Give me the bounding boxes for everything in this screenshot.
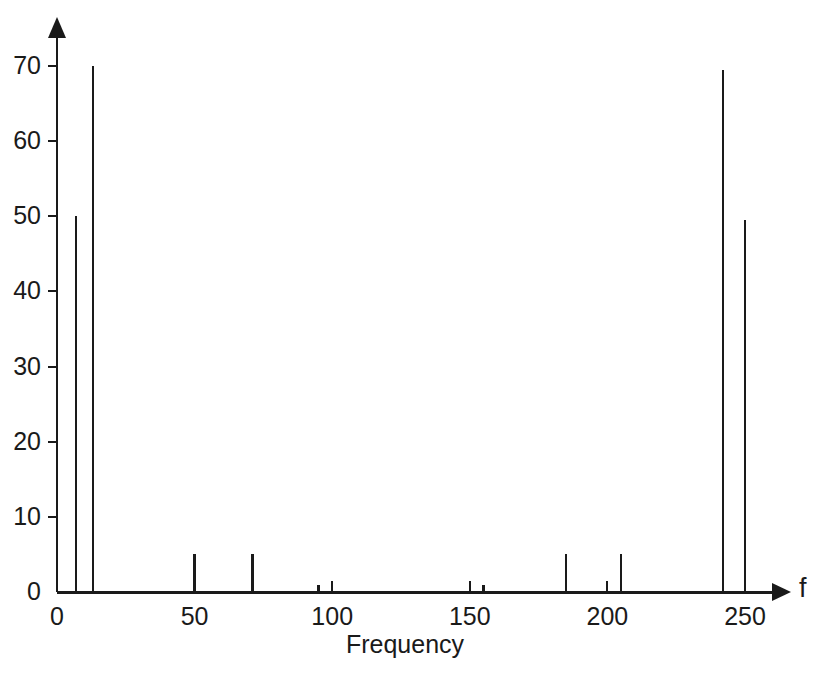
y-axis-tick-label: 20: [0, 429, 41, 454]
spectrum-plot-canvas: [0, 0, 836, 675]
x-axis-tick-label: 150: [430, 604, 510, 629]
y-axis-tick-label: 50: [0, 203, 41, 228]
x-axis-tick-label: 50: [155, 604, 235, 629]
y-axis-tick-label: 0: [0, 579, 41, 604]
spectrum-stems: [76, 66, 745, 592]
x-axis-title: Frequency: [305, 632, 505, 657]
x-axis-tick-label: 250: [705, 604, 785, 629]
ticks-layer: [48, 66, 745, 592]
frequency-spectrum-figure: 010203040506070 050100150200250 f Freque…: [0, 0, 836, 675]
y-axis-tick-label: 40: [0, 278, 41, 303]
x-axis-symbol-label: f: [799, 575, 807, 602]
y-axis-tick-label: 30: [0, 354, 41, 379]
y-axis-tick-label: 70: [0, 53, 41, 78]
x-axis-arrowhead: [772, 583, 791, 601]
x-axis-tick-label: 200: [567, 604, 647, 629]
y-axis-tick-label: 10: [0, 504, 41, 529]
x-axis-tick-label: 0: [17, 604, 97, 629]
axes-layer: [48, 17, 791, 601]
y-axis-tick-label: 60: [0, 128, 41, 153]
y-axis-arrowhead: [48, 17, 66, 38]
x-axis-tick-label: 100: [292, 604, 372, 629]
